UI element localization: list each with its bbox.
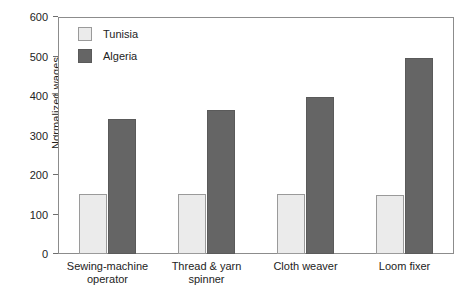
- y-tick-label: 400: [30, 90, 48, 102]
- x-tick-label-line: spinner: [147, 273, 267, 286]
- y-tick-label: 200: [30, 169, 48, 181]
- x-tick-label-line: Loom fixer: [345, 260, 461, 273]
- bar-algeria-1: [207, 110, 235, 254]
- x-tick-label-3: Loom fixer: [345, 260, 461, 273]
- y-tick-label: 100: [30, 209, 48, 221]
- bar-tunisia-0: [79, 194, 107, 254]
- y-tick-100: 100: [0, 209, 58, 221]
- y-tick-200: 200: [0, 169, 58, 181]
- legend-item-algeria: Algeria: [78, 46, 198, 65]
- bar-algeria-0: [108, 119, 136, 254]
- legend-label-algeria: Algeria: [103, 50, 137, 62]
- legend: Tunisia Algeria: [78, 24, 198, 68]
- y-tick-label: 300: [30, 130, 48, 142]
- y-tick-label: 500: [30, 51, 48, 63]
- bar-tunisia-2: [277, 194, 305, 254]
- y-tick-400: 400: [0, 90, 58, 102]
- y-tick-500: 500: [0, 51, 58, 63]
- legend-swatch-tunisia: [78, 27, 92, 41]
- y-tick-300: 300: [0, 130, 58, 142]
- y-tick-label: 0: [42, 248, 48, 260]
- y-tick-label: 600: [30, 11, 48, 23]
- legend-item-tunisia: Tunisia: [78, 24, 198, 43]
- bar-algeria-2: [306, 97, 334, 254]
- y-tick-600: 600: [0, 11, 58, 23]
- legend-swatch-algeria: [78, 49, 92, 63]
- bar-chart: Normalized wages 0100200300400500600 Sew…: [0, 0, 461, 302]
- y-tick-0: 0: [0, 248, 58, 260]
- bar-tunisia-3: [376, 195, 404, 254]
- legend-label-tunisia: Tunisia: [103, 28, 138, 40]
- bar-tunisia-1: [178, 194, 206, 254]
- bar-algeria-3: [405, 58, 433, 254]
